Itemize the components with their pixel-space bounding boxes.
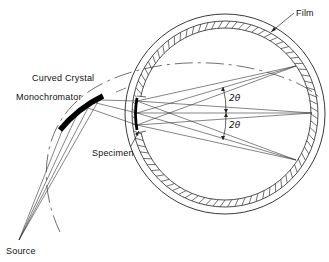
monochromator-label: Monochromator [16, 92, 82, 102]
monochromated-rays [88, 100, 137, 125]
crystal-label: Curved Crystal [32, 73, 94, 83]
source-label: Source [6, 246, 36, 256]
diagram-canvas [0, 0, 329, 262]
film-label: Film [296, 8, 314, 18]
two-theta-arc [223, 87, 226, 140]
focusing-circle [46, 63, 322, 232]
diffracted-rays [137, 66, 312, 160]
crystal-tick [116, 88, 126, 92]
diffraction-diagram: Film Curved Crystal Monochromator Specim… [0, 0, 329, 262]
angle-label-upper: 2θ [229, 93, 240, 103]
specimen [136, 98, 138, 130]
angle-label-lower: 2θ [229, 120, 240, 130]
film-strip [132, 21, 318, 207]
incident-rays [19, 98, 100, 240]
specimen-label: Specimen [92, 148, 134, 158]
